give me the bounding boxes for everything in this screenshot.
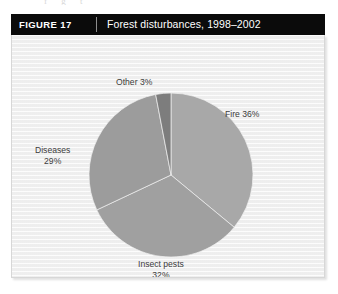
figure-container: FIGURE 17 Forest disturbances, 1998–2002… [11,14,325,278]
pie-label-diseases-value: 29% [35,156,70,167]
pie-label-insect-pests: Insect pests 32% [138,259,184,278]
pie-label-fire-text: Fire 36% [225,109,259,119]
figure-page: f g t FIGURE 17 Forest disturbances, 199… [0,0,338,294]
pie-label-other-text: Other 3% [116,77,152,87]
figure-number-label: FIGURE 17 [11,14,96,35]
chart-panel: Other 3% Fire 36% Diseases 29% Insect pe… [11,35,325,278]
pie-label-diseases-name: Diseases [35,145,70,156]
figure-header: FIGURE 17 Forest disturbances, 1998–2002 [11,14,325,35]
pie-label-insect-pests-name: Insect pests [138,259,184,270]
pie-label-insect-pests-value: 32% [138,270,184,278]
pie-label-diseases: Diseases 29% [35,145,70,167]
pie-label-fire: Fire 36% [225,109,259,120]
pie-chart: Other 3% Fire 36% Diseases 29% Insect pe… [12,35,324,277]
page-bleed-text: f g t [44,0,194,5]
pie-label-other: Other 3% [116,77,152,88]
figure-title: Forest disturbances, 1998–2002 [97,14,261,35]
